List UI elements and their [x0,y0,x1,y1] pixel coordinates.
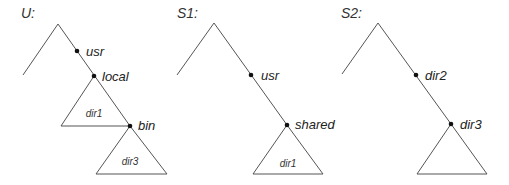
node-dot-shared [285,123,290,128]
tree-title-s1: S1: [177,5,198,21]
subtree-label-dir3: dir3 [122,156,139,167]
edge-root-left [23,24,58,75]
tree-s2: S2: dir2 dir3 [341,5,487,174]
edge-root-left [177,23,214,75]
subtree-label-dir1: dir1 [280,158,297,169]
tree-title-u: U: [21,5,35,21]
node-label-usr: usr [261,68,280,83]
node-dot-usr [75,49,80,54]
node-label-bin: bin [138,118,155,133]
node-dot-local [92,74,97,79]
tree-u: U: dir1 dir3 usr local bin [21,5,167,174]
node-label-dir2: dir2 [425,68,447,83]
tree-s1: S1: dir1 usr shared [177,5,336,174]
node-dot-bin [128,124,133,129]
node-dot-dir2 [414,73,419,78]
directory-trees-diagram: U: dir1 dir3 usr local bin S1: dir1 usr … [0,0,509,185]
node-dot-usr [249,73,254,78]
node-label-shared: shared [295,117,336,132]
edge-root-left [342,23,378,74]
node-label-dir3: dir3 [460,117,482,132]
subtree-label-dir1: dir1 [86,108,103,119]
node-label-local: local [102,69,130,84]
node-dot-dir3 [449,122,454,127]
tree-title-s2: S2: [341,5,362,21]
node-label-usr: usr [86,44,105,59]
